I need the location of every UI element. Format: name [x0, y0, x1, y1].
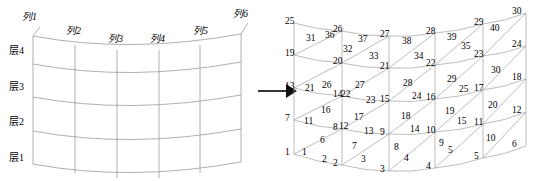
element-label: 16 — [321, 106, 331, 116]
element-label: 36 — [325, 31, 335, 41]
node-label: 24 — [512, 40, 522, 50]
node-label: 8 — [333, 123, 338, 133]
grid-row-line — [33, 62, 241, 73]
element-label: 39 — [447, 33, 457, 43]
node-label: 23 — [474, 50, 484, 60]
element-label: 34 — [414, 52, 424, 62]
element-label: 10 — [486, 134, 496, 144]
column-label-5: 列5 — [193, 22, 208, 37]
element-label: 20 — [488, 101, 498, 111]
element-label: 28 — [403, 79, 413, 89]
element-label: 26 — [322, 81, 332, 91]
layer-label-3: 层3 — [9, 78, 24, 93]
grid-row-line — [33, 129, 241, 140]
column-label-4: 列4 — [150, 30, 165, 45]
node-label: 10 — [426, 126, 436, 136]
element-label: 32 — [343, 45, 353, 55]
element-label: 30 — [491, 66, 501, 76]
node-label: 13 — [285, 82, 295, 92]
node-label: 7 — [285, 114, 290, 124]
element-label: 25 — [459, 85, 469, 95]
node-label: 25 — [285, 17, 295, 27]
grid-row-line — [33, 162, 241, 173]
mesh-row-line — [294, 146, 526, 171]
column-label-3: 列3 — [108, 30, 123, 45]
element-label: 7 — [352, 142, 357, 152]
node-label: 12 — [512, 106, 522, 116]
element-label: 6 — [320, 136, 325, 146]
label-leader — [241, 23, 248, 34]
layer-label-1: 层1 — [9, 149, 24, 164]
left-mesh-svg — [0, 0, 262, 181]
element-label: 5 — [448, 146, 453, 156]
label-leader — [33, 27, 40, 36]
node-label: 16 — [426, 93, 436, 103]
grid-row-line — [33, 34, 241, 45]
element-label: 14 — [410, 125, 420, 135]
element-label: 40 — [490, 24, 500, 34]
element-label: 27 — [355, 81, 365, 91]
element-label: 38 — [402, 37, 412, 47]
element-label: 29 — [447, 75, 457, 85]
element-label: 37 — [358, 35, 368, 45]
grid-row-line — [33, 95, 241, 106]
node-label: 6 — [512, 140, 517, 150]
node-label: 29 — [474, 18, 484, 28]
element-label: 2 — [322, 155, 327, 165]
node-label: 5 — [474, 152, 479, 162]
element-label: 33 — [369, 52, 379, 62]
element-label: 24 — [412, 92, 422, 102]
element-label: 8 — [394, 143, 399, 153]
node-label: 27 — [380, 30, 390, 40]
node-label: 18 — [512, 73, 522, 83]
node-label: 30 — [512, 7, 522, 17]
mesh-diagonal-line — [483, 13, 526, 56]
node-label: 15 — [380, 95, 390, 105]
element-label: 18 — [401, 112, 411, 122]
element-label: 35 — [461, 42, 471, 52]
node-label: 1 — [285, 148, 290, 158]
element-label: 22 — [341, 90, 351, 100]
node-label: 21 — [380, 62, 390, 72]
node-label: 4 — [426, 162, 431, 172]
element-label: 9 — [439, 139, 444, 149]
layer-label-2: 层2 — [9, 113, 24, 128]
node-label: 3 — [380, 165, 385, 175]
node-label: 2 — [333, 159, 338, 169]
node-label: 28 — [426, 27, 436, 37]
node-label: 17 — [474, 84, 484, 94]
element-label: 21 — [305, 84, 315, 94]
node-label: 22 — [426, 59, 436, 69]
element-label: 31 — [306, 34, 316, 44]
element-label: 1 — [302, 148, 307, 158]
node-label: 9 — [380, 128, 385, 138]
column-label-2: 列2 — [66, 22, 81, 37]
column-label-6: 列6 — [233, 5, 248, 20]
node-label: 19 — [285, 49, 295, 59]
element-label: 19 — [445, 107, 455, 117]
element-label: 3 — [361, 155, 366, 165]
element-label: 12 — [339, 122, 349, 132]
element-label: 13 — [364, 127, 374, 137]
layer-label-4: 层4 — [9, 42, 24, 57]
left-diagram: 列1 列2 列3 列4 列5 列6 层4 层3 层2 层1 — [0, 0, 262, 181]
element-label: 15 — [457, 117, 467, 127]
element-label: 4 — [404, 154, 409, 164]
element-label: 17 — [354, 113, 364, 123]
right-diagram: 1234567891011121314151617181920212223242… — [284, 0, 537, 181]
mesh-diagonal-line — [294, 96, 342, 120]
figure-root: 列1 列2 列3 列4 列5 列6 层4 层3 层2 层1 1234567891… — [0, 0, 537, 181]
column-label-1: 列1 — [22, 8, 37, 23]
mesh-diagonal-line — [294, 63, 342, 88]
node-label: 11 — [474, 118, 483, 128]
element-label: 23 — [366, 96, 376, 106]
node-label: 20 — [333, 57, 343, 67]
element-label: 11 — [304, 117, 313, 127]
